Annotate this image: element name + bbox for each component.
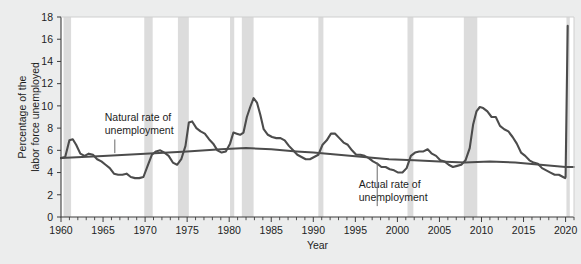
recession-band (178, 17, 189, 217)
x-axis-tick-label: 2015 (512, 224, 536, 236)
y-axis-title: Percentage of the (16, 75, 28, 158)
x-axis-tick-label: 1990 (302, 224, 326, 236)
x-axis-tick-label: 1970 (133, 224, 157, 236)
x-axis-tick-label: 1965 (91, 224, 115, 236)
annotation-label: Natural rate of (105, 111, 172, 123)
recession-band (230, 17, 234, 217)
x-axis-tick-label: 2000 (386, 224, 410, 236)
y-axis-tick-label: 8 (47, 122, 53, 134)
x-axis-tick-label: 1985 (260, 224, 284, 236)
y-axis-tick-label: 18 (41, 11, 53, 23)
y-axis-tick-label: 0 (47, 211, 53, 223)
x-axis-tick-label: 2020 (554, 224, 578, 236)
annotation-label: Actual rate of (359, 178, 421, 190)
y-axis-tick-label: 2 (47, 189, 53, 201)
x-axis-title: Year (307, 239, 329, 251)
annotation-label: unemployment (105, 124, 174, 136)
x-axis-tick-label: 1980 (218, 224, 242, 236)
annotation-label: unemployment (359, 191, 428, 203)
unemployment-chart: 0246810121416181960196519701975198019851… (0, 0, 581, 264)
recession-band (318, 17, 323, 217)
recession-band (64, 17, 72, 217)
y-axis-tick-label: 6 (47, 144, 53, 156)
y-axis-tick-label: 4 (47, 166, 53, 178)
y-axis-tick-label: 14 (41, 55, 53, 67)
y-axis-tick-label: 12 (41, 77, 53, 89)
y-axis-tick-label: 10 (41, 100, 53, 112)
x-axis-tick-label: 2005 (428, 224, 452, 236)
x-axis-tick-label: 1975 (175, 224, 199, 236)
x-axis-tick-label: 1960 (49, 224, 73, 236)
y-axis-tick-label: 16 (41, 33, 53, 45)
x-axis-tick-label: 2010 (470, 224, 494, 236)
y-axis-title: labor force unemployed (29, 62, 41, 172)
x-axis-tick-label: 1995 (344, 224, 368, 236)
